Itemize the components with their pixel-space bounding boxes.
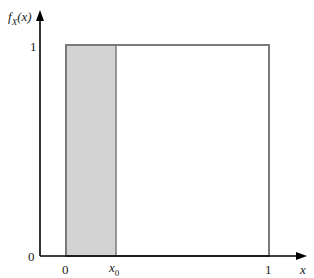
- x0-sub: 0: [115, 268, 120, 278]
- x-tick-1: 1: [265, 263, 272, 276]
- y-tick-0: 0: [28, 250, 35, 263]
- x-tick-x0: x0: [109, 261, 119, 278]
- plot-area: [0, 0, 314, 278]
- shaded-region: [66, 45, 116, 256]
- x-axis-arrow-icon: [296, 252, 307, 260]
- y-axis-label: fX(x): [8, 10, 32, 27]
- ylabel-arg: (x): [17, 9, 31, 24]
- y-axis-arrow-icon: [36, 10, 44, 21]
- y-tick-1: 1: [30, 40, 37, 53]
- x-axis-label: x: [300, 263, 306, 276]
- x-tick-0: 0: [62, 263, 69, 276]
